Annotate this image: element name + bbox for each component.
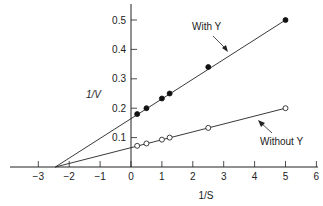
x-tick-label: 5 (283, 171, 289, 182)
x-tick-label: 6 (314, 171, 320, 182)
point-with-y (206, 65, 211, 70)
point-without-y (144, 141, 149, 146)
point-without-y (283, 106, 288, 111)
x-tick-label: −2 (63, 171, 75, 182)
annotation-with-y: With Y (192, 21, 222, 32)
y-tick-label: 0.3 (112, 73, 126, 84)
lineweaver-burk-chart: −3−2−101234560.10.20.30.40.5 1/V 1/S Wit… (0, 0, 323, 206)
annotation-arrow-without-y (258, 120, 272, 133)
data-points (135, 18, 288, 149)
y-tick-label: 0.2 (112, 103, 126, 114)
x-tick-label: 4 (252, 171, 258, 182)
x-tick-label: −1 (94, 171, 106, 182)
y-tick-label: 0.5 (112, 15, 126, 26)
x-tick-label: −3 (33, 171, 45, 182)
point-with-y (167, 91, 172, 96)
point-without-y (159, 137, 164, 142)
y-tick-label: 0.1 (112, 132, 126, 143)
annotation-arrow-with-y (213, 36, 228, 52)
x-tick-label: 3 (221, 171, 227, 182)
x-axis-label: 1/S (198, 190, 213, 201)
point-with-y (159, 96, 164, 101)
x-tick-label: 0 (128, 171, 134, 182)
point-without-y (206, 125, 211, 130)
x-tick-label: 2 (190, 171, 196, 182)
point-with-y (144, 106, 149, 111)
point-without-y (167, 135, 172, 140)
point-with-y (283, 18, 288, 23)
x-tick-label: 1 (159, 171, 165, 182)
point-with-y (135, 112, 140, 117)
annotation-without-y: Without Y (260, 136, 303, 147)
y-axis-label: 1/V (86, 89, 102, 100)
point-without-y (135, 143, 140, 148)
y-tick-label: 0.4 (112, 44, 126, 55)
axes: −3−2−101234560.10.20.30.40.5 (10, 4, 320, 182)
